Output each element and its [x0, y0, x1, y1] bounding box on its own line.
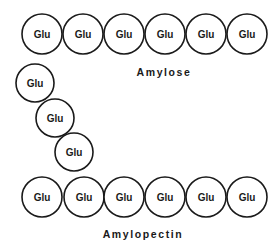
glucose-unit: Glu — [63, 14, 103, 54]
svg-text:Glu: Glu — [34, 192, 51, 203]
svg-text:Glu: Glu — [198, 192, 215, 203]
glucose-unit: Glu — [186, 177, 226, 217]
svg-text:Glu: Glu — [239, 192, 256, 203]
glucose-unit: Glu — [145, 14, 185, 54]
svg-text:Glu: Glu — [34, 29, 51, 40]
glucose-unit: Glu — [186, 14, 226, 54]
amylose-label: Amylose — [137, 66, 192, 78]
svg-text:Glu: Glu — [27, 78, 44, 89]
glucose-unit: Glu — [22, 177, 62, 217]
svg-text:Glu: Glu — [198, 29, 215, 40]
glucose-unit: Glu — [104, 14, 144, 54]
glucose-unit: Glu — [145, 177, 185, 217]
glucose-unit: Glu — [22, 14, 62, 54]
svg-text:Glu: Glu — [157, 29, 174, 40]
amylose-chain: Glu Glu Glu Glu Glu Glu — [22, 14, 267, 54]
glucose-unit: Glu — [55, 133, 93, 171]
svg-text:Glu: Glu — [157, 192, 174, 203]
svg-text:Glu: Glu — [76, 192, 93, 203]
glucose-unit: Glu — [104, 177, 144, 217]
svg-text:Glu: Glu — [116, 192, 133, 203]
glucose-unit: Glu — [36, 99, 74, 137]
amylopectin-main-chain: Glu Glu Glu Glu Glu Glu — [22, 177, 267, 217]
glucose-unit: Glu — [227, 177, 267, 217]
glucose-unit: Glu — [64, 177, 104, 217]
glucose-unit: Glu — [227, 14, 267, 54]
amylopectin-label: Amylopectin — [103, 228, 184, 240]
svg-text:Glu: Glu — [116, 29, 133, 40]
svg-text:Glu: Glu — [47, 113, 64, 124]
svg-text:Glu: Glu — [75, 29, 92, 40]
glucose-unit: Glu — [16, 64, 54, 102]
svg-text:Glu: Glu — [239, 29, 256, 40]
amylopectin-branch: Glu Glu Glu — [16, 64, 93, 171]
svg-text:Glu: Glu — [66, 147, 83, 158]
starch-structure-diagram: Glu Glu Glu Glu Glu Glu Amylose Glu Glu … — [0, 0, 280, 246]
